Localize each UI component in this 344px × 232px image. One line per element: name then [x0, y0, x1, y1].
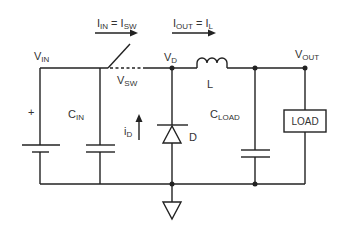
buck-converter-schematic: VIN VSW VD VOUT L CIN CLOAD iD D + LOAD …	[0, 0, 344, 232]
node-vout	[303, 66, 308, 71]
label-vsw: VSW	[117, 74, 138, 88]
label-cin: CIN	[68, 108, 84, 122]
node-vd	[170, 66, 175, 71]
id-arrow-head	[136, 114, 143, 122]
label-vout: VOUT	[295, 48, 319, 62]
label-battery-plus: +	[28, 106, 34, 118]
label-vin: VIN	[34, 50, 50, 64]
label-l: L	[207, 78, 213, 90]
node-cload-top	[253, 66, 258, 71]
label-load: LOAD	[291, 116, 318, 127]
label-cload: CLOAD	[210, 108, 240, 122]
label-id: iD	[124, 125, 132, 139]
label-i-out-eq: IOUT = IL	[173, 17, 214, 31]
switch-blade	[108, 44, 130, 68]
ground-icon	[163, 202, 181, 219]
label-d: D	[189, 131, 197, 143]
inductor-coil	[197, 58, 227, 68]
label-i-in-eq: IIN = ISW	[97, 17, 137, 31]
label-vd: VD	[164, 51, 177, 65]
diode-triangle	[163, 126, 181, 143]
